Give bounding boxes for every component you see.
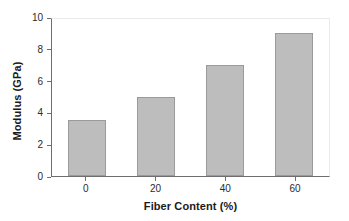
bar [68,120,106,176]
x-tick-label: 60 [275,183,315,194]
x-tick-mark [225,177,226,181]
x-axis-title: Fiber Content (%) [50,200,331,212]
y-tick-mark [47,49,51,50]
y-tick-mark [47,145,51,146]
y-tick-mark [47,18,51,19]
bar-slot [260,19,329,176]
y-tick-label: 8 [17,42,43,58]
y-tick-label: 6 [17,74,43,90]
x-tick-label: 20 [136,183,176,194]
bar-slot [121,19,190,176]
x-tick-mark [295,177,296,181]
x-tick-mark [155,177,156,181]
x-axis-ticks: 0204060 [51,177,330,199]
bar-slot [52,19,121,176]
bars-layer [52,19,329,176]
y-tick-label: 4 [17,105,43,121]
bar [137,97,175,177]
plot-area [51,18,330,177]
x-tick-label: 0 [66,183,106,194]
y-tick-label: 2 [17,137,43,153]
y-tick-mark [47,113,51,114]
y-tick-label: 10 [17,10,43,26]
y-tick-label: 0 [17,169,43,185]
bar-slot [191,19,260,176]
x-tick-label: 40 [205,183,245,194]
bar [206,65,244,176]
x-tick-mark [85,177,86,181]
bar-chart: Modulus (GPa) 0246810 0204060 Fiber Cont… [0,0,349,221]
bar [275,33,313,176]
y-tick-mark [47,81,51,82]
